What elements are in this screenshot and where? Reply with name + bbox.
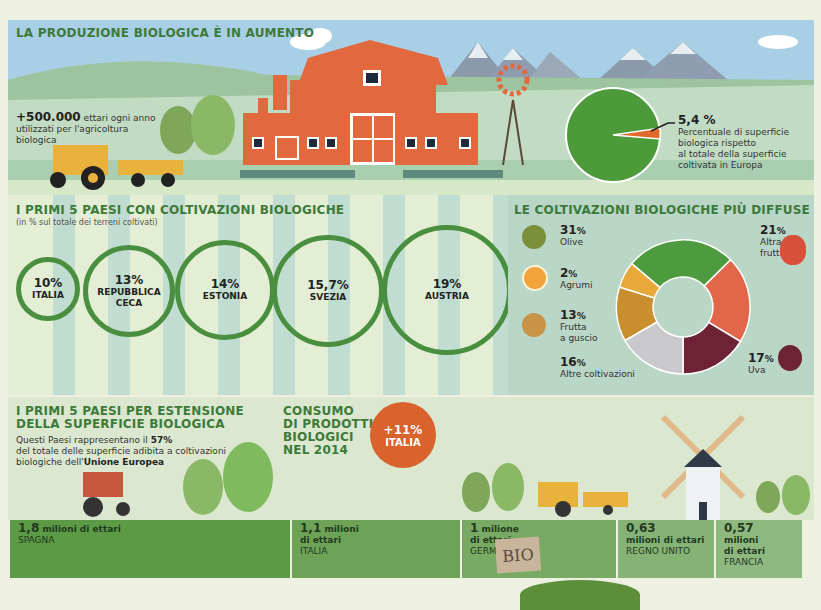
crop-name: a guscio bbox=[560, 333, 597, 343]
pie-text: al totale della superficie bbox=[678, 149, 786, 159]
bar-country: SPAGNA bbox=[18, 535, 54, 545]
pie-text: biologica rispetto bbox=[678, 138, 756, 148]
bar-unit: di ettari bbox=[300, 535, 341, 545]
crop-unit: % bbox=[765, 354, 774, 364]
crop-unit: % bbox=[577, 226, 586, 236]
grapes-icon bbox=[778, 345, 802, 371]
bar-value: 1,1 bbox=[300, 521, 321, 535]
country-name: ITALIA bbox=[32, 290, 64, 301]
country-pct: 15,7% bbox=[307, 279, 349, 292]
bar-francia: 0,57 milioni di ettari FRANCIA bbox=[716, 520, 802, 578]
pie-text: coltivata in Europa bbox=[678, 160, 762, 170]
country-name: AUSTRIA bbox=[425, 291, 469, 302]
section-subtitle: (in % sul totale dei terreni coltivati) bbox=[16, 218, 158, 227]
country-name: REPUBBLICA bbox=[97, 287, 160, 298]
bar-value: 0,63 bbox=[626, 521, 656, 535]
crop-unit: % bbox=[568, 269, 577, 279]
crop-pct: 31 bbox=[560, 223, 577, 237]
crop-unit: % bbox=[577, 311, 586, 321]
walnut-icon bbox=[522, 313, 546, 337]
crop-name: Uva bbox=[748, 365, 765, 375]
bar-unit: milioni di ettari bbox=[626, 535, 704, 545]
crop-pct: 13 bbox=[560, 308, 577, 322]
bar-value: 1,8 bbox=[18, 521, 39, 535]
pie-text: Percentuale di superficie bbox=[678, 127, 789, 137]
country-pct: 19% bbox=[433, 278, 462, 291]
bar-unit: milioni bbox=[724, 535, 758, 545]
bar-value: 1 bbox=[470, 521, 478, 535]
bar-spagna: 1,8 milioni di ettari SPAGNA bbox=[10, 520, 290, 578]
country-circle-repubblica-ceca: 13% REPUBBLICA CECA bbox=[83, 245, 175, 337]
country-circle-svezia: 15,7% SVEZIA bbox=[272, 235, 384, 347]
crop-name: Frutta bbox=[560, 322, 587, 332]
crop-unit: % bbox=[577, 358, 586, 368]
crop-label-altre: 16%Altre coltivazioni bbox=[560, 357, 635, 380]
countryside-illustration bbox=[8, 397, 814, 520]
bar-unit: di ettari bbox=[724, 546, 765, 556]
country-pct: 10% bbox=[34, 277, 63, 290]
crop-name: Olive bbox=[560, 237, 583, 247]
crop-label-olive: 31%Olive bbox=[560, 225, 586, 248]
pie-annotation: 5,4 % Percentuale di superficie biologic… bbox=[678, 115, 813, 171]
apple-icon bbox=[780, 235, 806, 265]
bar-country: FRANCIA bbox=[724, 557, 763, 567]
pie-value: 5,4 % bbox=[678, 113, 715, 127]
bio-plants-photo: BIO bbox=[490, 560, 640, 603]
bar-country: ITALIA bbox=[300, 546, 327, 556]
stat-text: ettari ogni anno bbox=[84, 113, 156, 123]
production-section: LA PRODUZIONE BIOLOGICA È IN AUMENTO +50… bbox=[8, 20, 814, 195]
section-title: LA PRODUZIONE BIOLOGICA È IN AUMENTO bbox=[16, 26, 314, 40]
crop-name: Altra bbox=[760, 237, 781, 247]
bar-country: REGNO UNITO bbox=[626, 546, 690, 556]
bar-italia: 1,1 milioni di ettari ITALIA bbox=[292, 520, 460, 578]
stat-text: biologica bbox=[16, 135, 56, 145]
extension-section: I PRIMI 5 PAESI PER ESTENSIONE DELLA SUP… bbox=[8, 397, 814, 520]
bar-unit: milioni bbox=[324, 524, 358, 534]
bar-unit: milioni di ettari bbox=[42, 524, 120, 534]
bar-unit: milione bbox=[482, 524, 519, 534]
crop-pct: 21 bbox=[760, 223, 777, 237]
crop-unit: % bbox=[777, 226, 786, 236]
crop-name: Agrumi bbox=[560, 280, 593, 290]
country-name: SVEZIA bbox=[310, 292, 346, 303]
bar-value: 0,57 bbox=[724, 521, 754, 535]
crop-label-agrumi: 2%Agrumi bbox=[560, 268, 593, 291]
stat-text: utilizzati per l'agricoltura bbox=[16, 124, 128, 134]
extension-bar-chart: 1,8 milioni di ettari SPAGNA 1,1 milioni… bbox=[8, 520, 814, 578]
country-circle-austria: 19% AUSTRIA bbox=[382, 225, 512, 355]
crop-label-uva: 17%Uva bbox=[748, 353, 774, 376]
country-pct: 14% bbox=[211, 278, 240, 291]
country-name: CECA bbox=[116, 298, 142, 309]
stat-hectares: +500.000 ettari ogni anno utilizzati per… bbox=[16, 112, 196, 146]
section-title: I PRIMI 5 PAESI CON COLTIVAZIONI BIOLOGI… bbox=[16, 203, 344, 217]
stat-value: +500.000 bbox=[16, 110, 81, 124]
section-title: LE COLTIVAZIONI BIOLOGICHE PIÙ DIFFUSE bbox=[508, 203, 810, 217]
country-circle-italia: 10% ITALIA bbox=[16, 257, 80, 321]
orange-icon bbox=[522, 265, 548, 291]
top-countries-percent-section: I PRIMI 5 PAESI CON COLTIVAZIONI BIOLOGI… bbox=[8, 195, 508, 395]
crop-name: Altre coltivazioni bbox=[560, 369, 635, 379]
olive-icon bbox=[522, 225, 546, 249]
country-pct: 13% bbox=[115, 274, 144, 287]
crop-pct: 17 bbox=[748, 351, 765, 365]
crop-label-frutta-guscio: 13%Fruttaa guscio bbox=[560, 310, 597, 344]
crop-pct: 16 bbox=[560, 355, 577, 369]
bio-sign: BIO bbox=[495, 537, 541, 574]
country-circle-estonia: 14% ESTONIA bbox=[175, 240, 275, 340]
basil-plants bbox=[520, 580, 640, 610]
country-name: ESTONIA bbox=[203, 291, 247, 302]
crops-donut-section: LE COLTIVAZIONI BIOLOGICHE PIÙ DIFFUSE 3… bbox=[508, 195, 814, 395]
